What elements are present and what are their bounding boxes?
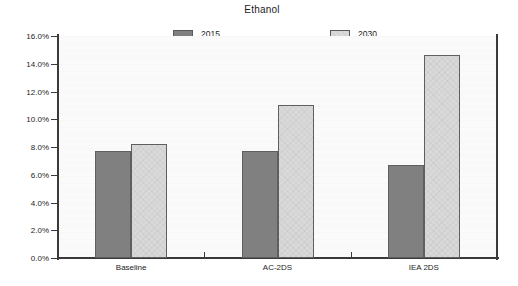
y-axis-tick-label: 4.0% <box>3 198 49 207</box>
y-axis-tick-label: 6.0% <box>3 170 49 179</box>
y-axis-tick-label: 12.0% <box>3 87 49 96</box>
y-axis-tick <box>51 203 58 204</box>
y-axis-tick <box>51 147 58 148</box>
y-axis-tick-label: 10.0% <box>3 115 49 124</box>
bar-baseline-2015[interactable] <box>95 151 131 258</box>
x-axis-label-iea-2ds: IEA 2DS <box>409 263 439 272</box>
y-axis-tick-label: 16.0% <box>3 32 49 41</box>
y-axis-labels: 0.0%2.0%4.0%6.0%8.0%10.0%12.0%14.0%16.0% <box>0 0 49 286</box>
y-axis-tick <box>51 119 58 120</box>
chart-title: Ethanol <box>0 4 518 15</box>
y-axis-tick-label: 2.0% <box>3 226 49 235</box>
chart-title-text: Ethanol <box>244 4 279 15</box>
y-axis-tick-label: 8.0% <box>3 143 49 152</box>
y-axis-tick <box>51 230 58 231</box>
bar-ac-2ds-2015[interactable] <box>242 151 278 258</box>
bar-baseline-2030[interactable] <box>131 144 167 258</box>
x-axis-tick <box>204 252 205 258</box>
y-axis-tick <box>51 258 58 259</box>
x-axis-label-baseline: Baseline <box>116 263 147 272</box>
bar-iea-2ds-2030[interactable] <box>424 55 460 258</box>
y-axis-tick <box>51 92 58 93</box>
x-axis-label-ac-2ds: AC-2DS <box>263 263 292 272</box>
bar-iea-2ds-2015[interactable] <box>388 165 424 258</box>
y-axis-tick <box>51 36 58 37</box>
y-axis-tick <box>51 175 58 176</box>
x-axis-tick <box>351 252 352 258</box>
y-axis-tick-label: 14.0% <box>3 59 49 68</box>
y-axis-tick <box>51 64 58 65</box>
y-axis-tick-label: 0.0% <box>3 254 49 263</box>
ethanol-bar-chart: Ethanol 20152030 0.0%2.0%4.0%6.0%8.0%10.… <box>0 0 518 286</box>
right-axis-line <box>496 34 498 260</box>
bar-ac-2ds-2030[interactable] <box>278 105 314 258</box>
